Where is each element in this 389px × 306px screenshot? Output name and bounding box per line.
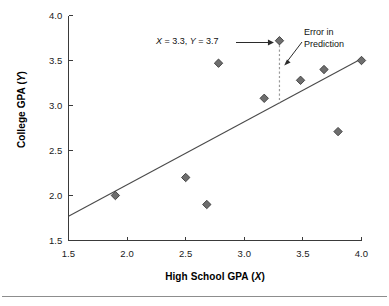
y-axis-title-prefix: College GPA ( xyxy=(16,81,27,148)
data-point xyxy=(214,59,222,67)
data-point xyxy=(203,200,211,208)
x-tick-label-4: 3.5 xyxy=(287,248,319,259)
x-tick-label-5: 4.0 xyxy=(346,248,378,259)
annotation-x-value: = 3.3, xyxy=(162,36,190,46)
annotation-leaders-group xyxy=(236,40,302,66)
y-tick-label-1: 2.0 xyxy=(35,190,63,201)
y-tick-label-0: 1.5 xyxy=(35,235,63,246)
x-axis-title-suffix: ) xyxy=(261,271,264,282)
y-axis-title: College GPA (Y) xyxy=(16,50,27,170)
data-points-group xyxy=(111,37,366,209)
y-tick-label-5: 4.0 xyxy=(35,10,63,21)
annotation-error-leader-line xyxy=(286,42,302,63)
data-point xyxy=(357,56,365,64)
y-tick-label-2: 2.5 xyxy=(35,145,63,156)
y-tick-label-4: 3.5 xyxy=(35,55,63,66)
regression-line-group xyxy=(69,59,362,217)
x-tick-label-3: 3.0 xyxy=(228,248,260,259)
x-tick-label-0: 1.5 xyxy=(53,248,85,259)
x-tick-label-2: 2.5 xyxy=(170,248,202,259)
data-point xyxy=(260,94,268,102)
data-point xyxy=(296,76,304,84)
annotation-error-line1: Error in xyxy=(304,27,334,37)
annotation-point-arrowhead xyxy=(268,40,274,46)
annotation-error-arrowhead xyxy=(284,60,290,66)
data-point xyxy=(334,127,342,135)
x-axis-title: High School GPA (X) xyxy=(68,271,362,282)
data-point xyxy=(320,65,328,73)
footer-divider xyxy=(2,296,387,297)
annotation-error-in-prediction: Error inPrediction xyxy=(304,27,374,50)
y-axis-title-variable: Y xyxy=(16,74,27,81)
data-point xyxy=(182,173,190,181)
data-point-highlighted xyxy=(275,37,283,45)
annotation-point-coordinates: X = 3.3, Y = 3.7 xyxy=(156,36,219,47)
y-axis-title-suffix: ) xyxy=(16,71,27,74)
regression-line xyxy=(69,59,362,217)
scatter-plot-figure: 1.52.02.53.03.54.0 1.52.02.53.03.54.0 Co… xyxy=(0,0,389,306)
annotation-y-value: = 3.7 xyxy=(196,36,219,46)
y-tick-label-3: 3.0 xyxy=(35,100,63,111)
x-tick-label-1: 2.0 xyxy=(111,248,143,259)
annotation-error-line2: Prediction xyxy=(304,39,344,49)
x-axis-title-prefix: High School GPA ( xyxy=(165,271,254,282)
